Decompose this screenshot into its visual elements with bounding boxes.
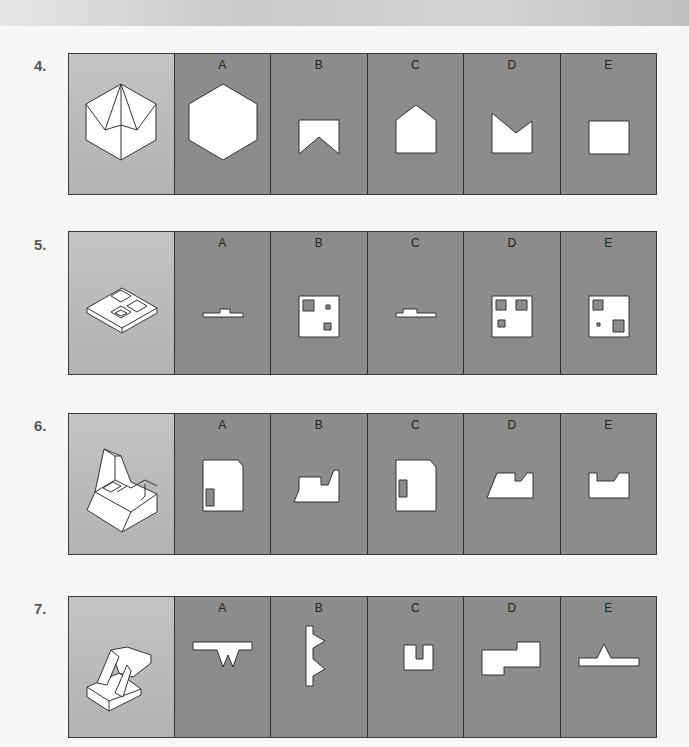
option-a[interactable]: A [174,597,270,737]
option-d[interactable]: D [463,232,559,374]
stepped-profile-shape [271,414,368,556]
option-e[interactable]: E [560,597,656,737]
u-shape [368,597,465,739]
question-number-5: 5. [34,236,47,253]
square-holes-shape [271,232,368,376]
house-shape [368,54,465,196]
question-row-5: A B C D E [68,231,657,375]
notched-rect-shape [271,54,368,196]
option-c[interactable]: C [367,232,463,374]
square-holes-shape [561,232,658,376]
notched-profile-shape [561,414,658,556]
stepped-block-figure [69,414,174,556]
question-number-4: 4. [34,57,47,74]
header-band [0,0,689,26]
figure-cell [69,597,174,737]
side-teeth-shape [271,597,368,739]
stepped-profile-shape [368,232,465,376]
option-b[interactable]: B [270,232,366,374]
v-notch-shape [464,54,561,196]
option-d[interactable]: D [463,414,559,554]
offset-rect-shape [464,597,561,739]
square-holes-shape [464,232,561,376]
question-number-6: 6. [34,417,47,434]
option-c[interactable]: C [367,414,463,554]
block-wedges-figure [69,597,174,739]
option-e[interactable]: E [560,232,656,374]
option-b[interactable]: B [270,54,366,194]
option-c[interactable]: C [367,597,463,737]
plate-recesses-figure [69,232,174,376]
figure-cell [69,54,174,194]
option-a[interactable]: A [174,232,270,374]
question-row-4: A B C D E [68,53,657,195]
bar-teeth-shape [175,597,272,739]
chamfered-rect-shape [175,414,272,556]
question-row-6: A B C D E [68,413,657,555]
stepped-profile-shape [175,232,272,376]
rectangle-shape [561,54,658,196]
option-b[interactable]: B [270,597,366,737]
option-e[interactable]: E [560,54,656,194]
question-number-7: 7. [34,600,47,617]
option-d[interactable]: D [463,54,559,194]
option-a[interactable]: A [174,414,270,554]
hexagon-shape [175,54,272,196]
stepped-profile-shape [464,414,561,556]
option-b[interactable]: B [270,414,366,554]
figure-cell [69,414,174,554]
bar-peak-shape [561,597,658,739]
option-c[interactable]: C [367,54,463,194]
option-a[interactable]: A [174,54,270,194]
hexagonal-pyramid-figure [69,54,174,196]
question-row-7: A B C D E [68,596,657,738]
chamfered-rect-shape [368,414,465,556]
option-d[interactable]: D [463,597,559,737]
option-e[interactable]: E [560,414,656,554]
figure-cell [69,232,174,374]
